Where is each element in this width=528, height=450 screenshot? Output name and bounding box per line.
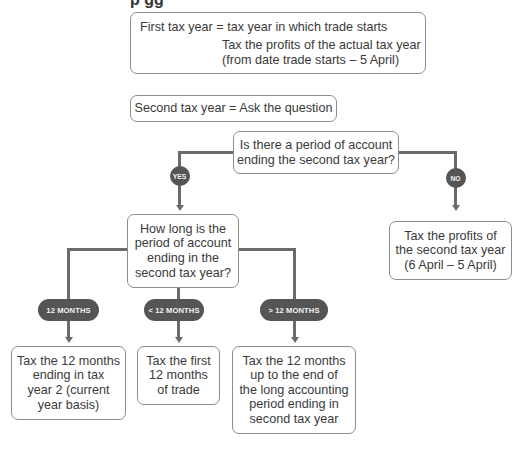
result-line: the long accounting [239, 383, 348, 398]
result-line: of trade [146, 383, 210, 398]
result-line: period ending in [239, 397, 348, 412]
no-result-box: Tax the profits of the second tax year (… [389, 221, 512, 280]
connector-q2-left [67, 248, 128, 251]
connector-gt12m-vertical [293, 248, 296, 339]
result-line: Tax the 12 months [17, 354, 120, 369]
result-line: second tax year [239, 412, 348, 427]
result-line: year 2 (current [17, 383, 120, 398]
result-less-than-12-months-box: Tax the first 12 months of trade [137, 346, 220, 405]
first-tax-year-box: First tax year = tax year in which trade… [130, 12, 426, 74]
arrow-down-icon [452, 205, 460, 211]
result-line: ending in tax [17, 368, 120, 383]
result-line: up to the end of [239, 368, 348, 383]
question2-line: How long is the [135, 222, 232, 237]
result-more-than-12-months-box: Tax the 12 months up to the end of the l… [232, 346, 356, 434]
question1-line: ending the second tax year? [237, 153, 395, 168]
no-result-line: Tax the profits of [396, 229, 506, 244]
second-tax-year-box: Second tax year = Ask the question [130, 95, 337, 122]
question2-line: ending in the [135, 251, 232, 266]
question1-line: Is there a period of account [237, 138, 395, 153]
result-line: year basis) [17, 398, 120, 413]
yes-badge: YES [170, 166, 190, 186]
result-line: Tax the 12 months [239, 354, 348, 369]
arrow-down-icon [291, 337, 299, 343]
first-tax-year-rule: Tax the profits of the actual tax year [222, 38, 421, 53]
page-title-fragment: p gg [130, 0, 164, 9]
no-result-line: (6 April – 5 April) [396, 258, 506, 273]
option-less-than-12-months-badge: < 12 MONTHS [144, 299, 204, 321]
question2-line: second tax year? [135, 266, 232, 281]
arrow-down-icon [65, 337, 73, 343]
second-tax-year-label: Second tax year = Ask the question [135, 101, 333, 116]
no-result-line: the second tax year [396, 243, 506, 258]
result-12-months-box: Tax the 12 months ending in tax year 2 (… [11, 346, 126, 420]
connector-q1-right [398, 151, 457, 154]
question-period-ending-box: Is there a period of account ending the … [233, 131, 399, 174]
connector-12m-vertical [67, 248, 70, 339]
first-tax-year-definition: First tax year = tax year in which trade… [140, 20, 387, 35]
arrow-down-icon [175, 337, 183, 343]
option-12-months-badge: 12 MONTHS [38, 299, 99, 321]
result-line: 12 months [146, 368, 210, 383]
connector-q1-left [178, 151, 234, 154]
connector-q2-right [238, 248, 296, 251]
first-tax-year-period: (from date trade starts – 5 April) [222, 53, 399, 68]
no-badge: NO [446, 168, 466, 188]
result-line: Tax the first [146, 354, 210, 369]
question-period-length-box: How long is the period of account ending… [127, 214, 239, 288]
option-more-than-12-months-badge: > 12 MONTHS [260, 299, 328, 321]
arrow-down-icon [176, 205, 184, 211]
question2-line: period of account [135, 236, 232, 251]
